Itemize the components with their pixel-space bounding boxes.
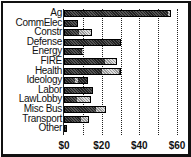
- bar-light-segment: [75, 78, 78, 83]
- bar-light-segment: [168, 11, 171, 16]
- bar-ag: [64, 10, 171, 17]
- x-tick-label: $20: [93, 140, 110, 151]
- plot-area: [63, 9, 183, 135]
- gridline: [121, 9, 122, 135]
- bar-light-segment: [81, 117, 88, 122]
- bar-other: [64, 125, 67, 132]
- bar-defense: [64, 39, 121, 46]
- x-tick-label: $60: [169, 140, 186, 151]
- bar-light-segment: [79, 30, 91, 35]
- bar-fire: [64, 58, 117, 65]
- bar-energy: [64, 48, 83, 55]
- bar-light-segment: [105, 59, 115, 64]
- bar-commelec: [64, 20, 78, 27]
- bar-health: [64, 68, 121, 75]
- bar-light-segment: [102, 69, 120, 74]
- x-tick-label: $40: [131, 140, 148, 151]
- gridline: [139, 9, 140, 135]
- bar-transport: [64, 116, 89, 123]
- bar-labor: [64, 87, 93, 94]
- bar-light-segment: [96, 107, 105, 112]
- bar-light-segment: [82, 49, 83, 54]
- bar-constr: [64, 29, 92, 36]
- bar-lawlobby: [64, 96, 91, 103]
- bar-ideology: [64, 77, 88, 84]
- bar-light-segment: [77, 97, 90, 102]
- x-tick-label: $0: [58, 140, 69, 151]
- bar-misc-bus: [64, 106, 106, 113]
- gridline: [158, 9, 159, 135]
- category-label: Other: [0, 123, 62, 133]
- gridline: [177, 9, 178, 135]
